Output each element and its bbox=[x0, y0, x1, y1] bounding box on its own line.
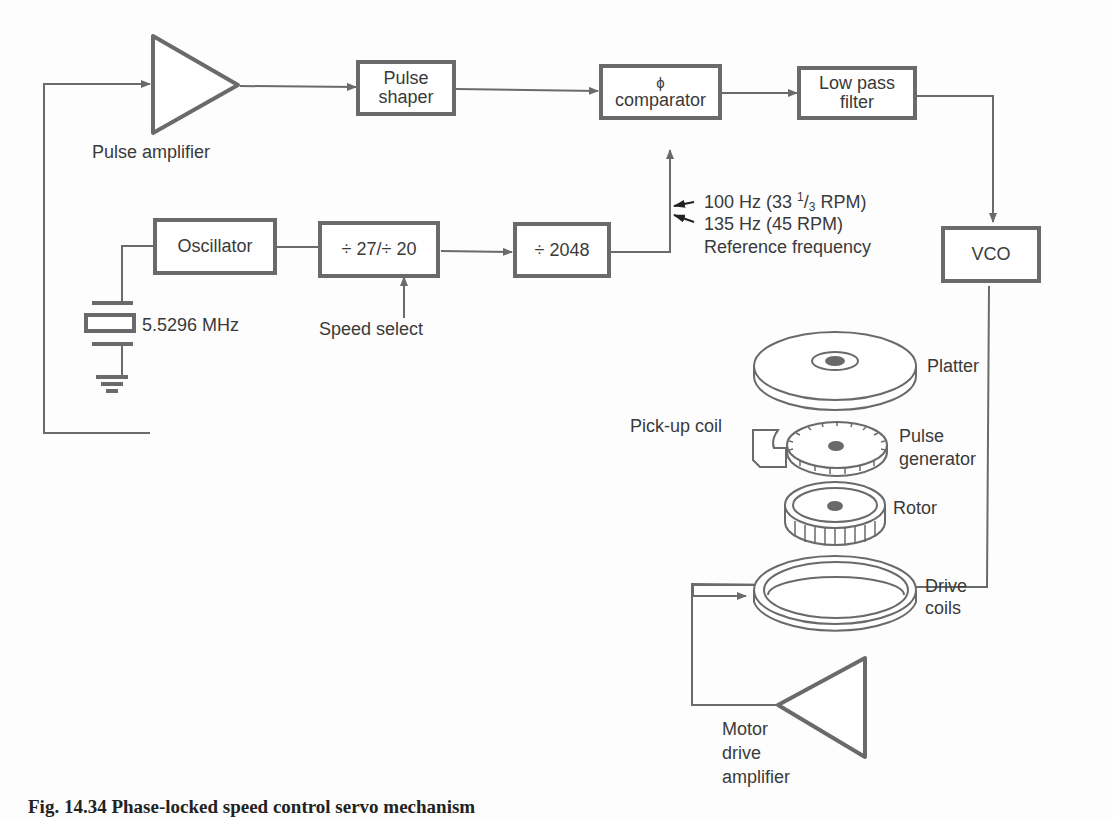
platter-label: Platter bbox=[927, 355, 979, 377]
vco-label: VCO bbox=[971, 245, 1010, 264]
low-pass-filter-label-2: filter bbox=[840, 93, 874, 112]
rotor-label: Rotor bbox=[893, 497, 937, 519]
ref-100hz-label: 100 Hz (33 1/3 RPM) bbox=[704, 191, 866, 215]
low-pass-filter-label-1: Low pass bbox=[819, 74, 895, 93]
rotor-icon bbox=[785, 482, 885, 545]
oscillator-label: Oscillator bbox=[177, 237, 252, 256]
vco-block: VCO bbox=[941, 226, 1041, 283]
pulse-amplifier-triangle bbox=[153, 36, 238, 133]
speed-divider-label: ÷ 27/÷ 20 bbox=[342, 240, 417, 259]
platter-icon bbox=[754, 332, 916, 410]
pulse-shaper-label-2: shaper bbox=[378, 88, 433, 107]
phase-comparator-label: comparator bbox=[615, 91, 706, 110]
feedback-wire bbox=[44, 84, 150, 433]
low-pass-filter-block: Low pass filter bbox=[797, 66, 917, 120]
divide-2048-label: ÷ 2048 bbox=[535, 241, 590, 260]
pulse-generator-icon bbox=[787, 422, 887, 476]
phase-comparator-block: ϕ comparator bbox=[599, 64, 722, 120]
divide-2048-block: ÷ 2048 bbox=[513, 222, 611, 278]
oscillator-block: Oscillator bbox=[153, 218, 277, 275]
pulse-shaper-block: Pulse shaper bbox=[356, 60, 456, 116]
speed-divider-block: ÷ 27/÷ 20 bbox=[318, 221, 440, 278]
motor-drive-amplifier-label: Motor drive amplifier bbox=[722, 717, 790, 789]
drive-coils-label: Drive coils bbox=[925, 575, 967, 619]
ground-icon bbox=[96, 377, 128, 391]
ref-135hz-label: 135 Hz (45 RPM) bbox=[704, 213, 843, 235]
figure-caption: Fig. 14.34 Phase-locked speed control se… bbox=[28, 796, 475, 818]
phi-symbol: ϕ bbox=[656, 75, 664, 91]
pulse-amplifier-label: Pulse amplifier bbox=[92, 141, 210, 163]
pickup-coil-label: Pick-up coil bbox=[630, 415, 722, 437]
motor-drive-amplifier-triangle bbox=[778, 658, 865, 757]
pulse-generator-label: Pulse generator bbox=[899, 425, 976, 471]
speed-select-label: Speed select bbox=[319, 318, 423, 340]
crystal-frequency-label: 5.5296 MHz bbox=[142, 314, 239, 336]
pulse-shaper-label-1: Pulse bbox=[383, 69, 428, 88]
reference-frequency-label: Reference frequency bbox=[704, 236, 871, 258]
pickup-coil-icon bbox=[753, 430, 786, 467]
drive-coils-icon bbox=[754, 556, 916, 631]
crystal-icon bbox=[86, 303, 134, 344]
